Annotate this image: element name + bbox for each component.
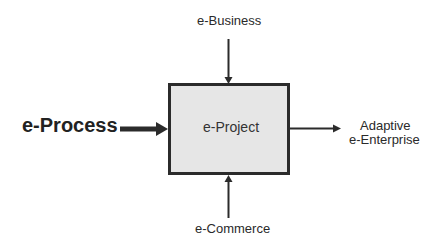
- adaptive-label: Adaptive: [360, 118, 411, 133]
- e-project-label: e-Project: [203, 119, 259, 135]
- e-commerce-label: e-Commerce: [195, 221, 270, 236]
- top-arrow: [225, 39, 233, 84]
- e-enterprise-label: e-Enterprise: [349, 132, 420, 147]
- e-process-label: e-Process: [22, 114, 118, 137]
- input-arrow: [120, 122, 168, 136]
- e-business-label: e-Business: [197, 13, 261, 28]
- output-arrow: [290, 125, 341, 133]
- bottom-arrow: [225, 175, 233, 218]
